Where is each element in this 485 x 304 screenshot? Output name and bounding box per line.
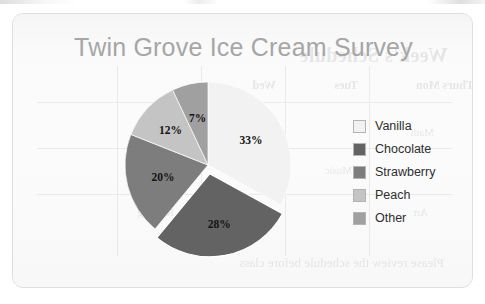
legend-swatch-icon <box>353 212 366 225</box>
scan-artifact-line <box>0 0 485 4</box>
legend-item-chocolate: Chocolate <box>353 138 469 161</box>
pie-label-vanilla: 33% <box>239 134 262 146</box>
legend-swatch-icon <box>353 166 366 179</box>
legend-item-other: Other <box>353 207 469 230</box>
legend-label: Chocolate <box>375 143 431 156</box>
legend-item-vanilla: Vanilla <box>353 115 469 138</box>
legend-swatch-icon <box>353 120 366 133</box>
scanned-page: Week's Schedule Mon Tues Wed Thurs Math … <box>0 0 485 304</box>
ghost-header: Mon <box>416 78 440 93</box>
pie-label-other: 7% <box>189 112 206 124</box>
legend-swatch-icon <box>353 143 366 156</box>
ghost-header: Thurs <box>443 78 473 93</box>
ghost-cell: Music <box>325 164 353 176</box>
legend-label: Vanilla <box>375 120 412 133</box>
pie-label-strawberry: 20% <box>152 171 175 183</box>
legend-label: Peach <box>375 189 410 202</box>
chart-title: Twin Grove Ice Cream Survey <box>13 33 473 62</box>
legend-item-peach: Peach <box>353 184 469 207</box>
pie-svg: 33%28%20%12%7% <box>107 64 317 264</box>
legend: Vanilla Chocolate Strawberry Peach Other <box>353 115 469 230</box>
pie-slices <box>125 82 291 257</box>
pie-label-peach: 12% <box>159 124 182 136</box>
legend-swatch-icon <box>353 189 366 202</box>
legend-label: Other <box>375 212 406 225</box>
chart-frame: Week's Schedule Mon Tues Wed Thurs Math … <box>12 13 473 288</box>
legend-label: Strawberry <box>375 166 435 179</box>
legend-item-strawberry: Strawberry <box>353 161 469 184</box>
ghost-header: Tues <box>334 78 358 93</box>
pie-chart: 33%28%20%12%7% <box>107 64 317 264</box>
pie-label-chocolate: 28% <box>208 218 231 230</box>
